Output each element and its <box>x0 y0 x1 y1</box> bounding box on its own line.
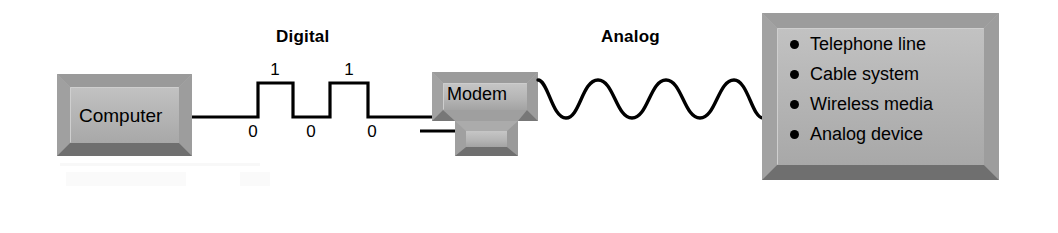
list-item: Cable system <box>790 60 980 88</box>
list-item-label: Analog device <box>810 124 923 145</box>
list-item: Wireless media <box>790 90 980 118</box>
list-item-label: Telephone line <box>810 34 926 55</box>
analog-sine-wave <box>538 80 763 118</box>
network-diagram: Digital Analog 1 1 0 0 0 Computer Modem … <box>0 0 1058 233</box>
bit-label-high-2: 1 <box>339 60 359 80</box>
bit-label-low-1: 0 <box>243 122 263 142</box>
bullet-icon <box>790 40 799 49</box>
bit-label-high-1: 1 <box>265 60 285 80</box>
modem-label: Modem <box>447 84 507 105</box>
list-item-label: Wireless media <box>810 94 933 115</box>
list-item-label: Cable system <box>810 64 919 85</box>
bit-label-low-2: 0 <box>301 122 321 142</box>
bullet-icon <box>790 130 799 139</box>
computer-label: Computer <box>79 105 162 127</box>
media-list: Telephone line Cable system Wireless med… <box>790 30 980 150</box>
list-item: Analog device <box>790 120 980 148</box>
list-item: Telephone line <box>790 30 980 58</box>
bit-label-low-3: 0 <box>362 122 382 142</box>
analog-label: Analog <box>601 27 660 47</box>
digital-label: Digital <box>276 27 329 47</box>
bullet-icon <box>790 70 799 79</box>
digital-square-wave <box>245 83 432 117</box>
bullet-icon <box>790 100 799 109</box>
